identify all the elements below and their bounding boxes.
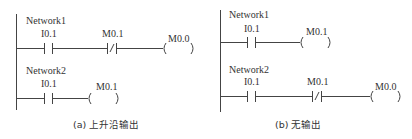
network-title: Network2 (26, 65, 66, 76)
network-1-rung: I0.1 M0.1 M0.0 (17, 28, 194, 54)
coil-label: M0.0 (375, 81, 396, 92)
network-2-rung: I0.1 M0.1 M0.0 (221, 76, 401, 102)
ladder-diagram-b: Network1 I0.1 M0.1 Network2 I0.1 (206, 0, 412, 139)
no-contact-icon (45, 43, 53, 54)
coil-icon (301, 37, 330, 48)
coil-icon (164, 43, 193, 54)
network-2-rung: I0.1 M0.1 (17, 78, 119, 104)
coil-label: M0.1 (306, 26, 327, 37)
network-1-rung: I0.1 M0.1 (221, 23, 331, 48)
coil-label: M0.0 (168, 33, 189, 44)
network-title: Network1 (26, 15, 66, 26)
nc-contact-icon (313, 91, 322, 102)
ladder-diagram-a: Network1 I0.1 M0.1 M0.0 (0, 0, 206, 139)
nc-contact-icon (108, 43, 117, 54)
coil-icon (89, 93, 118, 104)
caption: (a) 上升沿输出 (73, 119, 139, 130)
no-contact-icon (248, 37, 256, 48)
contact-label: I0.1 (244, 76, 260, 87)
network-title: Network2 (229, 64, 269, 75)
caption: (b) 无输出 (275, 119, 321, 130)
panel-b-no-output: Network1 I0.1 M0.1 Network2 I0.1 (206, 0, 412, 139)
coil-label: M0.1 (96, 81, 117, 92)
no-contact-icon (45, 93, 53, 104)
no-contact-icon (248, 91, 256, 102)
panel-a-rising-edge-output: Network1 I0.1 M0.1 M0.0 (0, 0, 206, 139)
contact-label: I0.1 (244, 23, 260, 34)
coil-icon (371, 91, 400, 102)
contact-label: I0.1 (41, 28, 57, 39)
contact-label: I0.1 (41, 78, 57, 89)
contact-label: M0.1 (102, 28, 123, 39)
network-title: Network1 (229, 9, 269, 20)
contact-label: M0.1 (307, 76, 328, 87)
